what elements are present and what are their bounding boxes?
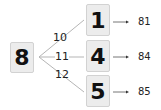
result-1: 81 [138, 17, 151, 27]
child-node-3: 5 [86, 75, 110, 107]
result-2: 84 [138, 52, 151, 62]
edge-label-2: 11 [55, 51, 69, 62]
edge-label-3: 12 [55, 69, 69, 80]
root-node: 8 [10, 42, 34, 73]
arrow-icon [113, 91, 129, 94]
child-node-1: 1 [86, 4, 110, 36]
result-3: 85 [138, 87, 151, 97]
arrow-icon [113, 56, 129, 59]
edge-label-1: 10 [53, 32, 67, 43]
arrow-icon [113, 21, 129, 24]
child-node-2: 4 [86, 40, 110, 72]
